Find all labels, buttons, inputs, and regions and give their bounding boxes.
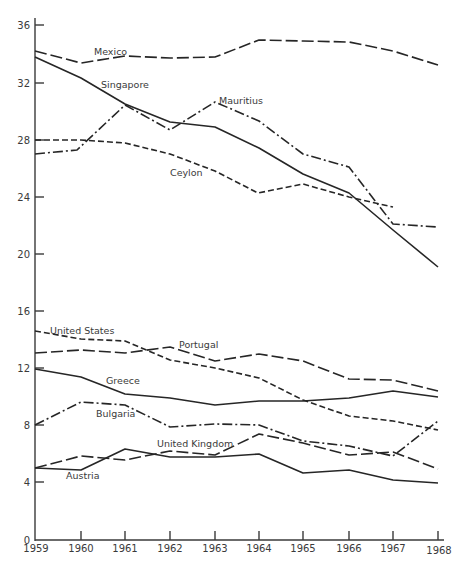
y-tick-label: 24	[17, 192, 30, 203]
label-united-kingdom: United Kingdom	[157, 438, 233, 449]
x-tick-label: 1968	[426, 545, 451, 556]
line-chart: 0 4 8 12 16 20 24 28 32 36 1959 1960 196…	[0, 0, 461, 572]
x-tick-label: 1964	[246, 543, 271, 554]
label-mauritius: Mauritius	[219, 95, 263, 106]
label-ceylon: Ceylon	[170, 167, 203, 178]
y-tick-label: 36	[17, 20, 30, 31]
series-singapore	[35, 57, 438, 267]
x-tick-label: 1963	[202, 543, 227, 554]
label-singapore: Singapore	[101, 79, 149, 90]
x-tick-label: 1966	[336, 543, 361, 554]
series-greece	[35, 369, 438, 405]
y-tick-label: 4	[24, 477, 30, 488]
y-tick-label: 8	[24, 420, 30, 431]
y-tick-label: 20	[17, 249, 30, 260]
x-tick-label: 1959	[23, 543, 48, 554]
y-tick-label: 16	[17, 306, 30, 317]
x-tick-label: 1960	[68, 543, 93, 554]
label-bulgaria: Bulgaria	[96, 408, 135, 419]
x-axis: 1959 1960 1961 1962 1963 1964 1965 1966 …	[23, 531, 451, 556]
x-tick-label: 1967	[380, 543, 405, 554]
label-greece: Greece	[106, 375, 140, 386]
y-tick-label: 28	[17, 135, 30, 146]
label-mexico: Mexico	[94, 46, 127, 57]
x-tick-label: 1961	[112, 543, 137, 554]
series-ceylon	[35, 140, 393, 207]
x-tick-label: 1965	[290, 543, 315, 554]
y-tick-label: 12	[17, 363, 30, 374]
series-portugal	[35, 347, 438, 391]
label-portugal: Portugal	[179, 339, 218, 350]
y-tick-label: 32	[17, 78, 30, 89]
x-tick-label: 1962	[157, 543, 182, 554]
series-mauritius	[35, 102, 438, 227]
series-labels: Mexico Singapore Mauritius Ceylon United…	[50, 46, 263, 481]
label-united-states: United States	[50, 325, 114, 336]
label-austria: Austria	[66, 470, 100, 481]
